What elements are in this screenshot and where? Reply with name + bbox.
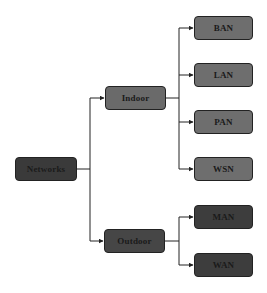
node-wan: WAN	[194, 253, 253, 277]
node-lan: LAN	[194, 63, 253, 87]
node-indoor-label: Indoor	[122, 93, 150, 103]
node-man-label: MAN	[212, 212, 234, 222]
node-pan-label: PAN	[214, 117, 232, 127]
node-lan-label: LAN	[214, 70, 234, 80]
node-networks: Networks	[15, 157, 77, 181]
node-ban-label: BAN	[214, 23, 234, 33]
node-man: MAN	[194, 205, 253, 229]
node-ban: BAN	[194, 16, 253, 40]
node-wan-label: WAN	[213, 260, 235, 270]
node-indoor: Indoor	[105, 86, 166, 110]
node-networks-label: Networks	[27, 164, 66, 174]
node-wsn: WSN	[194, 157, 253, 181]
node-pan: PAN	[194, 110, 253, 134]
network-taxonomy-diagram: Networks Indoor Outdoor BAN LAN PAN WSN …	[0, 0, 267, 293]
node-wsn-label: WSN	[213, 164, 234, 174]
node-outdoor: Outdoor	[104, 229, 165, 253]
node-outdoor-label: Outdoor	[117, 236, 151, 246]
